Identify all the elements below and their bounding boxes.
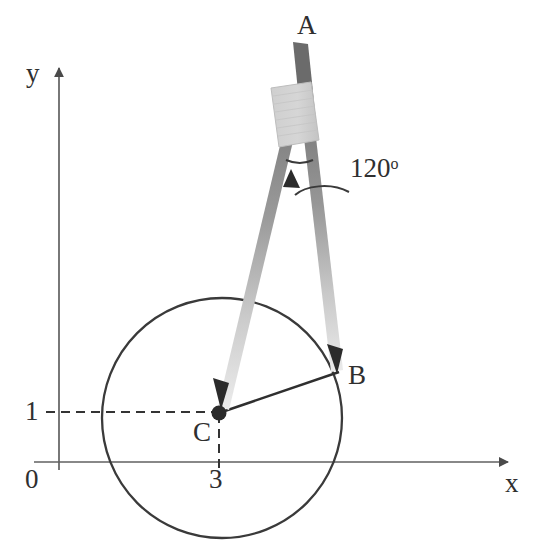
label-point-a: A — [297, 12, 317, 39]
angle-value-text: 120 — [350, 153, 391, 183]
degree-symbol-icon: o — [391, 155, 399, 172]
radius-segment-cb — [219, 372, 339, 413]
compass-head-block — [271, 82, 319, 147]
label-point-c: C — [193, 419, 211, 446]
axes-group — [34, 68, 508, 470]
figure-svg — [0, 0, 541, 546]
label-angle-120-degrees: 120o — [350, 155, 399, 182]
point-c-dot — [212, 406, 227, 421]
label-point-b: B — [348, 362, 366, 389]
label-x-tick-3: 3 — [209, 466, 223, 493]
label-y-tick-1: 1 — [25, 398, 39, 425]
label-x-axis: x — [505, 470, 519, 497]
label-y-axis: y — [26, 60, 40, 87]
figure-canvas: A y B C 1 0 3 x 120o — [0, 0, 541, 546]
label-origin-0: 0 — [25, 466, 39, 493]
compass-leg-left — [218, 112, 300, 410]
